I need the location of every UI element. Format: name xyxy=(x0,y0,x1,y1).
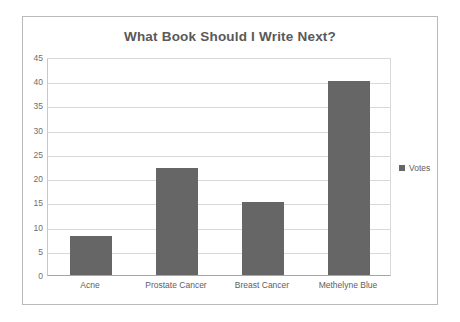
chart-frame: What Book Should I Write Next? 454035302… xyxy=(22,16,438,305)
y-axis-tick-label: 20 xyxy=(21,174,43,184)
bar-series-votes xyxy=(48,59,390,275)
x-axis-tick-label: Acne xyxy=(47,280,133,290)
x-axis-tick-label: Breast Cancer xyxy=(219,280,305,290)
bar[interactable] xyxy=(70,236,112,275)
y-axis-tick-label: 40 xyxy=(21,77,43,87)
bar[interactable] xyxy=(156,168,198,275)
chart-title: What Book Should I Write Next? xyxy=(23,29,437,44)
x-axis-tick-label: Prostate Cancer xyxy=(133,280,219,290)
legend-swatch-votes xyxy=(399,165,405,171)
y-axis-tick-label: 45 xyxy=(21,53,43,63)
y-axis-tick-label: 30 xyxy=(21,126,43,136)
y-axis-tick-label: 35 xyxy=(21,101,43,111)
bar-slot xyxy=(48,59,134,275)
bar[interactable] xyxy=(242,202,284,275)
y-axis-tick-label: 10 xyxy=(21,223,43,233)
bar-slot xyxy=(134,59,220,275)
bar-slot xyxy=(306,59,392,275)
x-axis-tick-label: Methelyne Blue xyxy=(305,280,391,290)
y-axis-tick-label: 25 xyxy=(21,150,43,160)
chart-legend: Votes xyxy=(399,163,430,173)
y-axis-tick-label: 5 xyxy=(21,247,43,257)
bar-slot xyxy=(220,59,306,275)
legend-label-votes: Votes xyxy=(409,163,430,173)
y-axis-tick-labels: 454035302520151050 xyxy=(23,58,43,276)
y-axis-tick-label: 15 xyxy=(21,198,43,208)
bar[interactable] xyxy=(328,81,370,275)
y-axis-tick-label: 0 xyxy=(21,271,43,281)
plot-area xyxy=(47,58,391,276)
